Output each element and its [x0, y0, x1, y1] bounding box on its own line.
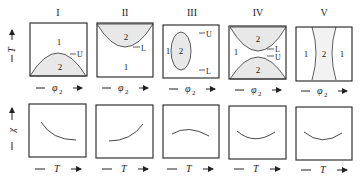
top-x-axis-labels: φ 2 φ 2 φ 2 φ 2 φ 2 [36, 82, 347, 99]
region-label: 1 [124, 62, 129, 72]
chi-panel-V [296, 107, 352, 160]
marker-label-U: U [77, 50, 83, 59]
phase-panel-I: 1 2 U [30, 23, 87, 76]
phase-panel-IV: 2 1 2 L U [229, 26, 286, 79]
region-label: 2 [256, 34, 261, 44]
column-title-II: II [122, 7, 129, 18]
svg-text:φ: φ [185, 83, 191, 94]
marker-label-L: L [206, 67, 211, 76]
svg-text:T: T [186, 163, 193, 174]
svg-text:χ: χ [6, 127, 17, 133]
region-label: 1 [166, 46, 171, 56]
column-title-I: I [56, 7, 59, 18]
region-label: 2 [322, 49, 327, 59]
svg-text:2: 2 [258, 90, 262, 98]
svg-text:T: T [54, 163, 61, 174]
svg-text:2: 2 [125, 88, 129, 96]
phase-panel-III: 1 2 U L [163, 25, 219, 78]
chi-panel-IV [229, 106, 286, 159]
bottom-y-axis-label: χ [6, 108, 17, 150]
phase-panel-V: 1 2 1 [296, 27, 352, 81]
svg-text:T: T [253, 163, 260, 174]
column-title-IV: IV [253, 7, 264, 18]
column-title-V: V [320, 7, 328, 18]
svg-text:2: 2 [192, 89, 196, 97]
svg-text:2: 2 [324, 91, 328, 99]
svg-text:φ: φ [251, 84, 257, 95]
svg-text:φ: φ [317, 85, 323, 96]
region-label: 1 [304, 49, 309, 59]
phase-diagram-figure: I II III IV V T χ 1 2 U 2 1 L 1 2 [0, 0, 360, 179]
phase-panel-II: 2 1 L [97, 23, 153, 77]
region-label: 2 [179, 46, 184, 56]
chi-panel-I [29, 104, 86, 157]
chi-panel-II [96, 105, 153, 158]
bottom-x-axis-labels: T T T T T [35, 163, 347, 175]
column-title-III: III [187, 7, 197, 18]
region-label: 1 [234, 47, 239, 57]
svg-text:T: T [6, 46, 17, 53]
svg-text:φ: φ [118, 82, 124, 93]
region-label: 2 [124, 32, 129, 42]
marker-label-U: U [206, 30, 212, 39]
svg-text:φ: φ [52, 82, 58, 93]
chi-panel-III [163, 105, 219, 158]
region-label: 1 [340, 49, 345, 59]
svg-text:2: 2 [59, 88, 63, 96]
svg-text:T: T [320, 164, 327, 175]
region-label: 2 [256, 65, 261, 75]
marker-label-L: L [141, 44, 146, 53]
marker-label-U: U [275, 53, 281, 62]
region-label: 2 [58, 62, 63, 72]
svg-text:T: T [121, 163, 128, 174]
top-y-axis-label: T [6, 30, 17, 62]
region-label: 1 [57, 37, 62, 47]
